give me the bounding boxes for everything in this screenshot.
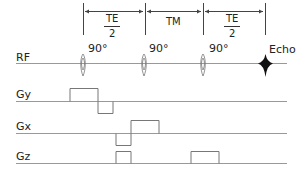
fraction-numerator: TE <box>104 14 120 27</box>
fraction-denominator: 2 <box>224 27 240 39</box>
pulse-sequence-diagram <box>0 0 305 174</box>
rf-label: RF <box>16 52 30 63</box>
rf-pulse-2-label: 90° <box>149 43 169 54</box>
interval-label-tm: TM <box>166 17 181 27</box>
rf-pulse-1 <box>81 54 86 76</box>
gx-pulse-positive <box>131 121 159 134</box>
gy-pulse-negative <box>98 102 113 114</box>
interval-label-te-half-1: TE 2 <box>104 14 120 39</box>
gy-pulse-positive <box>70 89 98 102</box>
fraction-numerator: TE <box>224 14 240 27</box>
gy-label: Gy <box>16 89 31 100</box>
fraction-denominator: 2 <box>104 27 120 39</box>
rf-pulse-3 <box>201 54 206 76</box>
echo-signal-icon <box>258 54 273 77</box>
interval-label-te-half-2: TE 2 <box>224 14 240 39</box>
rf-pulse-2 <box>142 54 147 76</box>
gz-label: Gz <box>16 151 30 162</box>
gx-pulse-negative <box>116 134 131 146</box>
rf-pulse-3-label: 90° <box>209 43 229 54</box>
gx-label: Gx <box>16 121 31 132</box>
echo-label: Echo <box>269 44 296 55</box>
gz-pulse-2 <box>191 152 219 164</box>
rf-pulse-1-label: 90° <box>88 43 108 54</box>
gz-pulse-1 <box>116 152 131 164</box>
rf-pulses <box>81 54 206 76</box>
